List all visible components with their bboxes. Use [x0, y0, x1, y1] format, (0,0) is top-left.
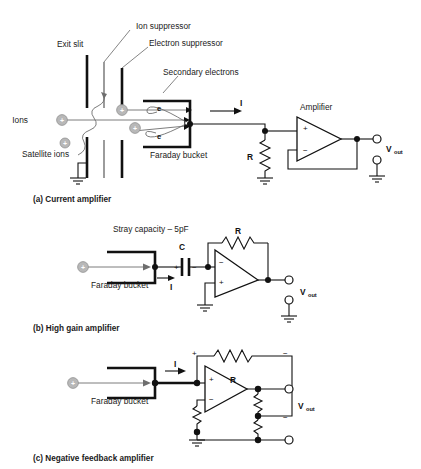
panel-b: + − +: [33, 224, 317, 333]
label-faraday-bucket-a: Faraday bucket: [150, 150, 208, 160]
label-vout-sub-a: out: [394, 149, 403, 155]
ion-charge-label: +: [60, 117, 64, 124]
current-arrow-head-c: [178, 368, 186, 375]
label-secondary-electrons: Secondary electrons: [163, 67, 239, 77]
leader-ion-suppressor: [104, 30, 130, 62]
label-faraday-bucket-c: Faraday bucket: [91, 396, 149, 406]
label-exit-slit: Exit slit: [57, 39, 84, 49]
bucket-to-amp-wire: [190, 124, 265, 131]
opamp-plus-a: +: [303, 124, 308, 133]
label-current-a: I: [240, 98, 242, 108]
divider-resistor-upper-c: [254, 394, 262, 416]
ion-beam-arrow-b: [143, 264, 151, 271]
output-node-a: [354, 136, 360, 142]
satellite-ion-charge-label: +: [63, 140, 67, 147]
satellite-ion-trajectory: [78, 95, 104, 155]
leader-electron-suppressor: [122, 47, 148, 68]
ion-charge-label-upper: +: [120, 107, 124, 114]
ion-marker-c: +: [68, 378, 79, 389]
ion-charge-label-b: +: [81, 264, 85, 271]
feedback-resistor-R-c: [214, 350, 268, 362]
ground-symbol-resistor-a: [257, 178, 273, 184]
output-terminal-ground-c[interactable]: [285, 436, 293, 444]
label-vout-b: V: [300, 287, 306, 297]
opamp-minus-b: −: [219, 258, 224, 267]
label-current-b: I: [170, 282, 172, 292]
ion-marker-main: +: [57, 115, 68, 126]
leader-secondary-electrons: [163, 76, 178, 93]
label-ion-suppressor: Ion suppressor: [136, 21, 191, 31]
label-ions: Ions: [12, 115, 28, 125]
label-electron-suppressor: Electron suppressor: [149, 38, 223, 48]
label-stray-capacity: Stray capacity – 5pF: [113, 224, 189, 234]
output-terminal-positive-a[interactable]: [373, 135, 381, 143]
label-faraday-bucket-b: Faraday bucket: [91, 280, 149, 290]
feedback-minus-label-c: −: [283, 349, 288, 358]
label-amplifier: Amplifier: [300, 102, 333, 112]
caption-panel-a: (a) Current amplifier: [33, 195, 112, 204]
current-arrow-head-b: [168, 275, 175, 281]
opamp-minus-a: −: [303, 146, 308, 155]
ground-symbol-output-a: [369, 176, 385, 182]
ground-symbol-output-b: [281, 316, 297, 322]
label-capacitor-b: C: [179, 242, 185, 252]
ion-marker-b: +: [78, 262, 89, 273]
feedback-resistor-R-b: [222, 237, 268, 249]
label-electron-lower-a: e: [157, 132, 161, 141]
label-resistor-c: R: [230, 375, 236, 385]
label-resistor-a: R: [247, 152, 253, 162]
label-vout-sub-b: out: [308, 292, 317, 298]
panel-c: + + −: [33, 349, 315, 463]
output-terminal-ground-b[interactable]: [285, 296, 293, 304]
label-satellite-ions: Satellite ions: [22, 149, 69, 159]
current-arrow-head-a: [234, 108, 242, 115]
label-vout-a: V: [386, 144, 392, 154]
ion-marker-lower: +: [130, 123, 141, 134]
capacitor-plus-label: +: [174, 263, 179, 272]
opamp-plus-b: +: [219, 278, 224, 287]
ion-marker-upper: +: [117, 105, 128, 116]
ground-symbol-c: [189, 432, 205, 446]
label-vout-sub-c: out: [306, 406, 315, 412]
satellite-ion-arrow: [101, 92, 107, 99]
ion-beam-arrow-c: [143, 380, 151, 387]
feedback-right-wire-c: [268, 356, 292, 404]
faraday-bucket-a: [143, 101, 190, 147]
exit-slit-ground-wire: [78, 163, 87, 178]
label-vout-c: V: [298, 401, 304, 411]
ion-charge-label-c: +: [71, 380, 75, 387]
output-terminal-positive-b[interactable]: [285, 276, 293, 284]
label-current-c: I: [174, 359, 176, 369]
ground-symbol-exit-slit: [70, 178, 86, 184]
opamp-triangle-c: [205, 366, 247, 412]
figure-container: + + + + + −: [0, 0, 421, 469]
caption-panel-c: (c) Negative feedback amplifier: [33, 454, 154, 463]
opamp-plus-c: +: [209, 375, 214, 384]
opamp-minus-c: −: [209, 395, 214, 404]
divider-minus-label-c: −: [283, 413, 288, 422]
ion-marker-satellite: +: [60, 138, 70, 148]
label-resistor-b: R: [235, 226, 241, 236]
secondary-electron-path-lower: [146, 124, 186, 137]
output-node-b: [265, 277, 271, 283]
panel-a: + + + + + −: [12, 21, 403, 204]
ground-symbol-opamp-b: [197, 305, 213, 311]
feedback-plus-label-c: +: [192, 349, 197, 358]
capacitor-minus-label: −: [192, 263, 197, 272]
opamp-minus-wire-c: [197, 400, 205, 406]
opamp-plus-ground-wire-b: [205, 283, 215, 305]
caption-panel-b: (b) High gain amplifier: [33, 324, 120, 333]
circuit-diagram-svg: + + + + + −: [0, 0, 421, 469]
divider-resistor-lower-left-c: [193, 406, 201, 432]
output-terminal-ground-a[interactable]: [373, 156, 381, 164]
ion-charge-label-lower: +: [133, 125, 137, 132]
output-terminal-positive-c[interactable]: [285, 385, 293, 393]
label-electron-upper-a: e: [157, 104, 161, 113]
resistor-R-a: [260, 140, 270, 178]
